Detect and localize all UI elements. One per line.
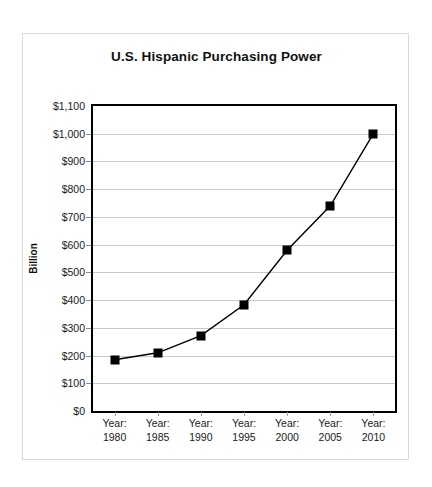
chart-frame: U.S. Hispanic Purchasing Power Billion $… — [22, 33, 409, 460]
x-axis-tick-mark — [244, 412, 245, 416]
series-layer — [93, 106, 395, 411]
chart-title: U.S. Hispanic Purchasing Power — [23, 49, 410, 64]
x-axis-tick-mark — [201, 412, 202, 416]
x-axis-tick-mark — [330, 412, 331, 416]
data-point-marker — [196, 331, 205, 340]
data-point-marker — [153, 348, 162, 357]
data-point-marker — [240, 300, 249, 309]
x-axis-tick-mark — [373, 412, 374, 416]
data-point-marker — [369, 129, 378, 138]
plot-area — [91, 104, 397, 413]
x-axis-tick-labels: Year:1980Year:1985Year:1990Year:1995Year… — [91, 416, 397, 460]
data-point-marker — [283, 246, 292, 255]
x-axis-tick-mark — [158, 412, 159, 416]
x-axis-tick-label-year: 2010 — [345, 430, 401, 444]
x-axis-tick-label-prefix: Year: — [345, 416, 401, 430]
x-axis-tick-mark — [287, 412, 288, 416]
data-point-marker — [110, 355, 119, 364]
x-axis-tick-mark — [115, 412, 116, 416]
series-line — [93, 106, 395, 411]
data-point-marker — [326, 201, 335, 210]
chart-screenshot: U.S. Hispanic Purchasing Power Billion $… — [0, 0, 432, 487]
y-axis-tick-marks — [23, 104, 93, 413]
x-axis-tick-label: Year:2010 — [345, 416, 401, 444]
